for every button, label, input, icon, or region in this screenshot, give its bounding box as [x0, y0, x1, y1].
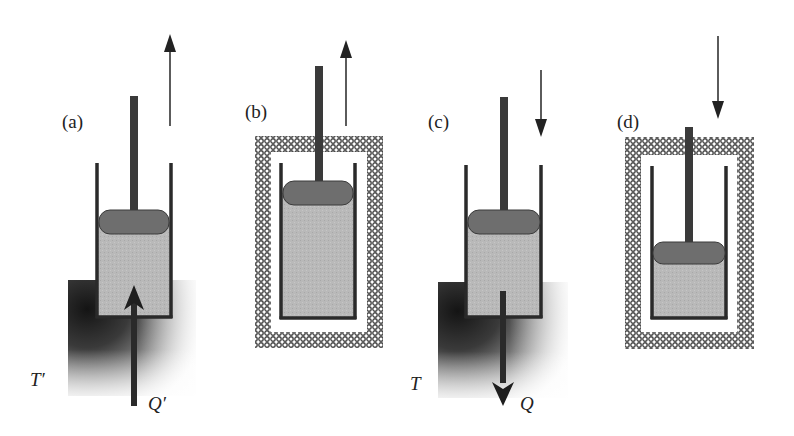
panel-c: (c) T Q — [410, 70, 568, 414]
work-arrow-down-icon — [535, 70, 547, 137]
piston-rod — [315, 66, 323, 184]
piston — [468, 210, 540, 234]
heat-label: Q′ — [148, 393, 167, 414]
reservoir-temp-label: T — [410, 373, 422, 394]
piston — [99, 210, 169, 234]
panel-b: (b) — [245, 40, 383, 348]
carnot-cycle-diagram: (a) T′ Q′ (b) — [0, 0, 794, 436]
heat-label: Q — [520, 393, 534, 414]
piston-rod — [685, 127, 693, 245]
piston-rod — [500, 97, 508, 213]
reservoir-temp-label: T′ — [30, 369, 46, 390]
panel-label-d: (d) — [617, 111, 639, 133]
piston — [653, 242, 725, 264]
panel-label-a: (a) — [62, 111, 83, 133]
work-arrow-up-icon — [164, 34, 176, 126]
work-arrow-down-icon — [712, 36, 724, 119]
piston-rod — [130, 96, 138, 213]
panel-label-c: (c) — [428, 111, 449, 133]
panel-a: (a) T′ Q′ — [30, 34, 196, 414]
panel-d: (d) — [617, 36, 754, 349]
piston — [283, 181, 353, 205]
panel-label-b: (b) — [245, 101, 267, 123]
work-arrow-up-icon — [340, 40, 352, 126]
